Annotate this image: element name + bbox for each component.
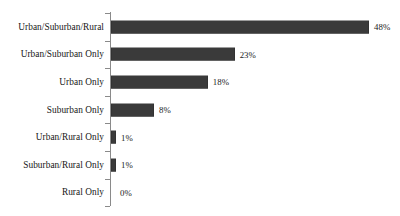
axis-tick: [105, 179, 110, 180]
bar-row: Urban Only18%: [0, 68, 400, 96]
bar-category-label: Rural Only: [0, 187, 104, 198]
axis-tick: [105, 206, 110, 207]
axis-tick: [105, 151, 110, 152]
bar-value-label: 23%: [240, 49, 256, 59]
axis-tick: [105, 123, 110, 124]
bar-row: Rural Only0%: [0, 179, 400, 207]
bar-track: 0%: [111, 186, 132, 199]
bar-track: 23%: [111, 48, 256, 61]
bar-row: Suburban Only8%: [0, 96, 400, 124]
bar-track: 48%: [111, 20, 390, 33]
axis-tick: [105, 96, 110, 97]
axis-tick: [105, 41, 110, 42]
bar-row: Urban/Rural Only1%: [0, 123, 400, 151]
bar-fill: [111, 48, 235, 61]
axis-tick: [105, 13, 110, 14]
bar-category-label: Urban/Suburban/Rural: [0, 21, 104, 32]
bar-value-label: 8%: [159, 105, 171, 115]
bar-track: 1%: [111, 158, 133, 171]
axis-tick: [105, 68, 110, 69]
bar-value-label: 1%: [121, 160, 133, 170]
bar-category-label: Suburban Only: [0, 104, 104, 115]
bar-value-label: 18%: [213, 77, 229, 87]
bar-row: Suburban/Rural Only1%: [0, 151, 400, 179]
bar-row: Urban/Suburban Only23%: [0, 41, 400, 69]
bar-category-label: Suburban/Rural Only: [0, 159, 104, 170]
bar-category-label: Urban/Suburban Only: [0, 49, 104, 60]
bar-category-label: Urban Only: [0, 76, 104, 87]
bar-value-label: 48%: [374, 22, 390, 32]
bar-value-label: 0%: [120, 187, 132, 197]
bar-fill: [111, 103, 154, 116]
bar-chart: Urban/Suburban/Rural48%Urban/Suburban On…: [0, 0, 400, 216]
plot-area: Urban/Suburban/Rural48%Urban/Suburban On…: [0, 0, 400, 216]
bar-row: Urban/Suburban/Rural48%: [0, 13, 400, 41]
bar-track: 8%: [111, 103, 171, 116]
bar-category-label: Urban/Rural Only: [0, 132, 104, 143]
bar-value-label: 1%: [121, 132, 133, 142]
bar-fill: [111, 75, 208, 88]
bar-fill: [111, 158, 116, 171]
bar-fill: [111, 131, 116, 144]
bar-fill: [111, 20, 369, 33]
bar-track: 18%: [111, 75, 229, 88]
bar-track: 1%: [111, 131, 133, 144]
